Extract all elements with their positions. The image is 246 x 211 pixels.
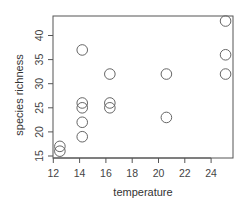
- y-tick-label: 35: [33, 54, 45, 66]
- y-tick-label: 40: [33, 30, 45, 42]
- y-axis-title: species richness: [13, 54, 25, 136]
- y-tick-label: 30: [33, 78, 45, 90]
- data-point: [220, 16, 231, 27]
- data-point: [77, 45, 88, 56]
- x-tick-label: 12: [47, 167, 59, 179]
- scatter-plot: 12141618202224 152025303540 temperature …: [0, 0, 246, 211]
- data-point: [161, 69, 172, 80]
- data-point: [77, 117, 88, 128]
- data-point: [220, 69, 231, 80]
- y-axis: 152025303540: [33, 30, 53, 162]
- x-tick-label: 18: [126, 167, 138, 179]
- data-point: [77, 131, 88, 142]
- x-tick-label: 20: [153, 167, 165, 179]
- data-points: [55, 16, 231, 157]
- x-tick-label: 14: [74, 167, 86, 179]
- y-tick-label: 25: [33, 102, 45, 114]
- data-point: [105, 69, 116, 80]
- data-point: [220, 49, 231, 60]
- x-axis-title: temperature: [113, 186, 172, 198]
- plot-frame: [53, 16, 233, 158]
- y-tick-label: 20: [33, 126, 45, 138]
- x-tick-label: 16: [100, 167, 112, 179]
- data-point: [161, 112, 172, 123]
- y-tick-label: 15: [33, 150, 45, 162]
- x-tick-label: 24: [205, 167, 217, 179]
- x-axis: 12141618202224: [47, 158, 217, 179]
- x-tick-label: 22: [179, 167, 191, 179]
